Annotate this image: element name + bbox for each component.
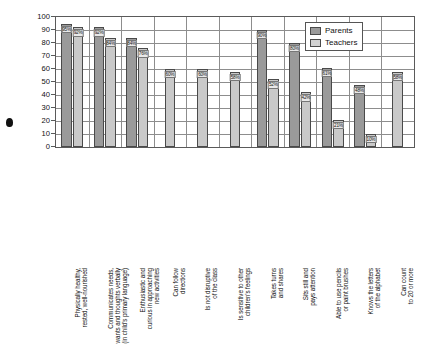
bar-teachers-1: 84% bbox=[105, 38, 116, 147]
x-axis-label-8: Able to use pencilsor paint brushes bbox=[335, 268, 349, 319]
y-tick-label-50: 50 bbox=[42, 77, 50, 86]
bar-value-label: 76% bbox=[138, 50, 149, 57]
x-axis-label-line: Can follow bbox=[172, 268, 179, 296]
legend-item-teachers: Teachers bbox=[310, 38, 357, 47]
bar-teachers-2: 76% bbox=[138, 48, 149, 147]
bar-value-label: 80% bbox=[289, 45, 300, 52]
bar-value-label: 48% bbox=[354, 87, 365, 94]
x-axis-label-line: directions bbox=[179, 268, 186, 296]
x-axis-label-5: Is sensitive to otherchildren's feelings bbox=[237, 268, 251, 320]
bar-teachers-7: 42% bbox=[301, 92, 312, 147]
bar-value-label: 92% bbox=[94, 29, 105, 36]
x-axis-label-line: children's feelings bbox=[244, 268, 251, 320]
bar-teachers-8: 21% bbox=[333, 120, 344, 147]
legend-label-teachers: Teachers bbox=[325, 38, 357, 47]
y-tick-label-30: 30 bbox=[42, 103, 50, 112]
y-tick-label-60: 60 bbox=[42, 64, 50, 73]
bar-value-label: 60% bbox=[197, 71, 208, 78]
legend-swatch-parents-icon bbox=[310, 27, 321, 35]
bar-value-label: 92% bbox=[73, 29, 84, 36]
x-axis-label-3: Can followdirections bbox=[172, 268, 186, 296]
y-tick-label-80: 80 bbox=[42, 38, 50, 47]
bar-value-label: 95% bbox=[61, 26, 72, 33]
x-axis-label-line: Sits still and bbox=[302, 268, 309, 306]
y-tick-label-10: 10 bbox=[42, 129, 50, 138]
bar-teachers-10: 58% bbox=[392, 72, 403, 147]
x-axis-label-line: wants and thoughts verbally bbox=[114, 268, 121, 344]
x-axis-label-4: Is not disruptiveof the class bbox=[204, 268, 218, 310]
bar-teachers-5: 58% bbox=[230, 72, 241, 147]
x-axis-label-line: Is sensitive to other bbox=[237, 268, 244, 320]
x-axis-category-labels: Physically healthy,rested, well-nourishe… bbox=[55, 150, 415, 272]
bar-value-label: 60% bbox=[165, 71, 176, 78]
y-tick-label-90: 90 bbox=[42, 25, 50, 34]
x-axis-label-line: Communicates needs, bbox=[107, 268, 114, 344]
x-axis-label-2: Enthusiastic andcurious in approachingne… bbox=[139, 268, 161, 329]
bar-value-label: 84% bbox=[126, 40, 137, 47]
bar-teachers-0: 92% bbox=[73, 27, 84, 147]
x-axis-label-7: Sits still andpays attention bbox=[302, 268, 316, 306]
legend-swatch-teachers-icon bbox=[310, 39, 321, 47]
bar-parents-7: 80% bbox=[289, 43, 300, 147]
bar-parents-9: 48% bbox=[354, 85, 365, 147]
chart-legend: Parents Teachers bbox=[305, 22, 363, 51]
y-tick-label-0: 0 bbox=[46, 142, 50, 151]
x-axis-label-line: (in child's primary language) bbox=[121, 268, 128, 344]
bar-value-label: 21% bbox=[333, 122, 344, 129]
x-axis-label-line: of the alphabet bbox=[374, 268, 381, 315]
bar-value-label: 90% bbox=[256, 32, 267, 39]
legend-item-parents: Parents bbox=[310, 26, 357, 35]
x-axis-label-line: and shares bbox=[277, 268, 284, 299]
x-axis-label-line: Takes turns bbox=[270, 268, 277, 299]
y-axis: 1009080706050403020100 bbox=[0, 16, 55, 148]
x-axis-label-line: new activities bbox=[154, 268, 161, 329]
bar-parents-1: 92% bbox=[94, 27, 105, 147]
x-axis-label-10: Can countto 20 or more bbox=[400, 268, 414, 304]
bar-teachers-9: 10% bbox=[366, 134, 377, 147]
bar-teachers-6: 52% bbox=[268, 79, 279, 147]
bar-teachers-3: 60% bbox=[165, 69, 176, 147]
bar-parents-0: 95% bbox=[61, 24, 72, 148]
y-tick-label-20: 20 bbox=[42, 116, 50, 125]
bar-value-label: 10% bbox=[366, 136, 377, 143]
x-axis-label-line: of the class bbox=[212, 268, 219, 310]
x-axis-label-line: or paint brushes bbox=[342, 268, 349, 319]
legend-label-parents: Parents bbox=[325, 26, 353, 35]
x-axis-label-9: Knows the lettersof the alphabet bbox=[367, 268, 381, 315]
bar-parents-8: 61% bbox=[322, 68, 333, 147]
x-axis-label-0: Physically healthy,rested, well-nourishe… bbox=[74, 268, 88, 327]
bar-value-label: 58% bbox=[392, 74, 403, 81]
x-axis-label-line: to 20 or more bbox=[407, 268, 414, 304]
bar-teachers-4: 60% bbox=[197, 69, 208, 147]
x-axis-label-line: rested, well-nourished bbox=[81, 268, 88, 327]
bar-value-label: 84% bbox=[105, 40, 116, 47]
bar-parents-6: 90% bbox=[257, 30, 268, 147]
x-axis-label-6: Takes turnsand shares bbox=[270, 268, 284, 299]
y-tick-label-100: 100 bbox=[37, 12, 50, 21]
bar-value-label: 42% bbox=[301, 94, 312, 101]
x-axis-label-line: pays attention bbox=[309, 268, 316, 306]
bar-value-label: 52% bbox=[268, 81, 279, 88]
x-axis-label-line: Able to use pencils bbox=[335, 268, 342, 319]
y-tick-label-40: 40 bbox=[42, 90, 50, 99]
y-tick-label-70: 70 bbox=[42, 51, 50, 60]
bar-value-label: 58% bbox=[230, 74, 241, 81]
x-axis-label-line: Can count bbox=[400, 268, 407, 304]
x-axis-label-1: Communicates needs,wants and thoughts ve… bbox=[107, 268, 129, 344]
bar-value-label: 61% bbox=[322, 70, 333, 77]
bar-parents-2: 84% bbox=[126, 38, 137, 147]
